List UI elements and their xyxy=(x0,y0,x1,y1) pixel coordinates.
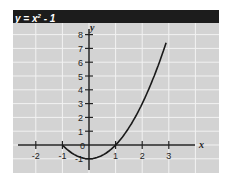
chart-frame: y = x2 - 1 -2-1123-1123456780xy xyxy=(13,10,219,173)
y-tick-label: 8 xyxy=(78,30,83,40)
y-tick-label: 4 xyxy=(78,85,83,95)
parabola-chart: -2-1123-1123456780xy xyxy=(13,23,219,173)
y-tick-label: 2 xyxy=(78,113,83,123)
y-tick-label: 7 xyxy=(78,44,83,54)
y-tick-label: 3 xyxy=(78,99,83,109)
x-tick-label: -2 xyxy=(32,151,40,161)
y-tick-label: 6 xyxy=(78,58,83,68)
x-tick-label: 3 xyxy=(166,151,171,161)
plot-area: -2-1123-1123456780xy xyxy=(13,23,219,173)
y-tick-label: 1 xyxy=(78,127,83,137)
x-axis-label: x xyxy=(198,139,204,150)
x-tick-label: 2 xyxy=(140,151,145,161)
y-tick-label: 5 xyxy=(78,72,83,82)
x-tick-label: 1 xyxy=(113,151,118,161)
origin-label: 0 xyxy=(80,141,85,151)
y-axis-label: y xyxy=(89,23,95,33)
x-tick-label: -1 xyxy=(58,151,66,161)
chart-title: y = x2 - 1 xyxy=(13,10,219,23)
